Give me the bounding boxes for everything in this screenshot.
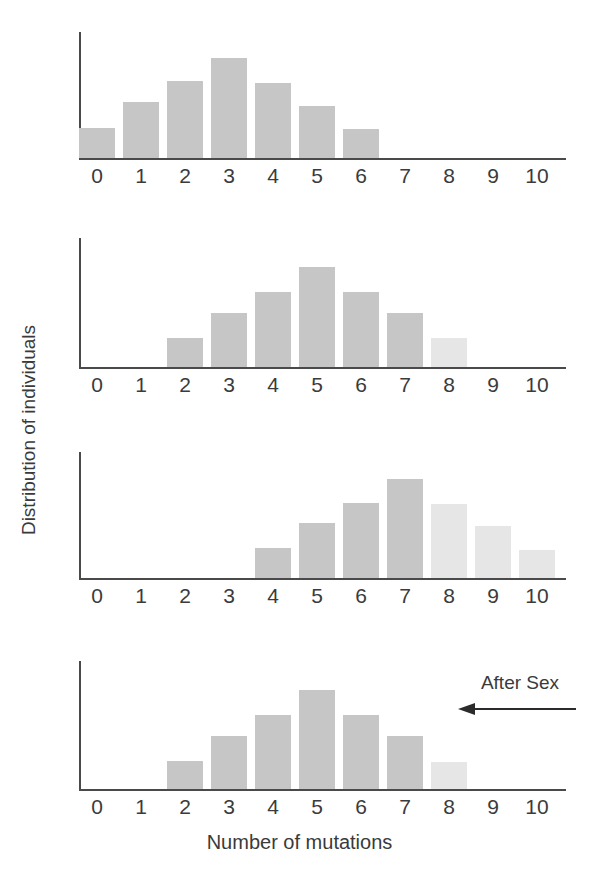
x-tick-10: 10 <box>515 584 559 608</box>
x-tick-6: 6 <box>339 584 383 608</box>
y-axis-label-text: Distribution of individuals <box>18 325 40 535</box>
x-tick-4: 4 <box>251 584 295 608</box>
bar-panel-1-cat-5 <box>299 106 335 158</box>
bar-panel-1-cat-2 <box>167 81 203 158</box>
bar-panel-1-cat-4 <box>255 83 291 158</box>
x-tick-9: 9 <box>471 164 515 188</box>
x-tick-10: 10 <box>515 795 559 819</box>
mutation-distribution-figure: Distribution of individuals 012345678910… <box>0 0 599 887</box>
x-tick-labels: 012345678910 <box>0 373 599 399</box>
arrow-shaft <box>472 708 576 710</box>
bar-panel-3-cat-6 <box>343 503 379 578</box>
x-tick-1: 1 <box>119 584 163 608</box>
x-tick-2: 2 <box>163 584 207 608</box>
left-arrow-icon <box>458 703 576 715</box>
x-axis-line <box>79 158 566 160</box>
bar-panel-4-cat-6 <box>343 715 379 789</box>
bar-panel-3-cat-9 <box>475 526 511 578</box>
x-tick-8: 8 <box>427 584 471 608</box>
x-tick-9: 9 <box>471 584 515 608</box>
x-tick-10: 10 <box>515 373 559 397</box>
bar-panel-4-cat-4 <box>255 715 291 789</box>
x-tick-9: 9 <box>471 795 515 819</box>
x-tick-0: 0 <box>75 584 119 608</box>
x-tick-3: 3 <box>207 164 251 188</box>
x-tick-3: 3 <box>207 795 251 819</box>
y-axis-label: Distribution of individuals <box>12 296 46 564</box>
bar-panel-2-cat-6 <box>343 292 379 367</box>
bar-panel-3-cat-7 <box>387 479 423 578</box>
x-tick-labels: 012345678910 <box>0 584 599 610</box>
x-tick-2: 2 <box>163 164 207 188</box>
after-sex-annotation: After Sex <box>455 672 585 694</box>
bar-panel-3-cat-8 <box>431 504 467 578</box>
x-tick-7: 7 <box>383 373 427 397</box>
x-tick-0: 0 <box>75 164 119 188</box>
x-tick-3: 3 <box>207 373 251 397</box>
x-tick-5: 5 <box>295 164 339 188</box>
x-tick-4: 4 <box>251 795 295 819</box>
bar-panel-4-cat-2 <box>167 761 203 789</box>
x-tick-2: 2 <box>163 795 207 819</box>
x-tick-6: 6 <box>339 164 383 188</box>
x-tick-3: 3 <box>207 584 251 608</box>
bar-panel-4-cat-8 <box>431 762 467 789</box>
x-axis-line <box>79 578 566 580</box>
bar-panel-1-cat-3 <box>211 58 247 158</box>
x-tick-9: 9 <box>471 373 515 397</box>
x-tick-5: 5 <box>295 373 339 397</box>
x-axis-label: Number of mutations <box>0 831 599 854</box>
bar-panel-4-cat-3 <box>211 736 247 789</box>
x-tick-0: 0 <box>75 795 119 819</box>
bar-panel-2-cat-7 <box>387 313 423 367</box>
x-tick-8: 8 <box>427 795 471 819</box>
x-axis-line <box>79 789 566 791</box>
y-axis-line <box>79 238 81 369</box>
x-tick-5: 5 <box>295 584 339 608</box>
bar-panel-2-cat-2 <box>167 338 203 367</box>
bar-panel-1-cat-6 <box>343 129 379 158</box>
x-tick-labels: 012345678910 <box>0 164 599 190</box>
y-axis-line <box>79 661 81 791</box>
x-tick-labels: 012345678910 <box>0 795 599 821</box>
bar-panel-3-cat-4 <box>255 548 291 578</box>
y-axis-line <box>79 452 81 580</box>
x-tick-2: 2 <box>163 373 207 397</box>
x-tick-0: 0 <box>75 373 119 397</box>
x-tick-1: 1 <box>119 164 163 188</box>
x-tick-6: 6 <box>339 373 383 397</box>
x-tick-10: 10 <box>515 164 559 188</box>
x-tick-1: 1 <box>119 373 163 397</box>
x-tick-4: 4 <box>251 373 295 397</box>
x-tick-4: 4 <box>251 164 295 188</box>
x-tick-7: 7 <box>383 795 427 819</box>
x-tick-7: 7 <box>383 164 427 188</box>
bar-panel-3-cat-10 <box>519 550 555 578</box>
bar-panel-4-cat-7 <box>387 736 423 789</box>
x-tick-7: 7 <box>383 584 427 608</box>
x-tick-1: 1 <box>119 795 163 819</box>
bar-panel-2-cat-5 <box>299 267 335 367</box>
bar-panel-1-cat-0 <box>79 128 115 158</box>
bar-panel-4-cat-5 <box>299 690 335 789</box>
x-axis-line <box>79 367 566 369</box>
x-tick-8: 8 <box>427 164 471 188</box>
bar-panel-2-cat-8 <box>431 338 467 367</box>
bar-panel-2-cat-3 <box>211 313 247 367</box>
bar-panel-2-cat-4 <box>255 292 291 367</box>
bar-panel-3-cat-5 <box>299 523 335 578</box>
x-tick-5: 5 <box>295 795 339 819</box>
bar-panel-1-cat-1 <box>123 102 159 158</box>
x-tick-8: 8 <box>427 373 471 397</box>
x-tick-6: 6 <box>339 795 383 819</box>
